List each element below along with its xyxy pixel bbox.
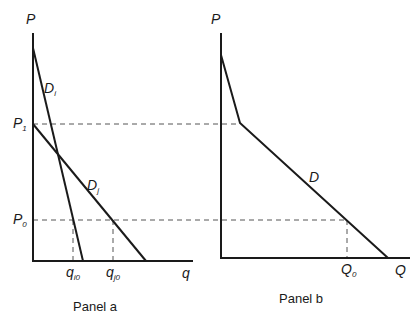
p0-label: P0 [13,211,27,229]
diagram-canvas: P q Di Dj P1 P0 qi0 qj0 Panel a P Q D Q0… [0,0,418,322]
aggregate-demand-curve [221,55,388,258]
panel-a-y-axis-label: P [26,11,36,27]
di-label: Di [44,80,56,98]
p1-label: P1 [13,115,27,133]
panel-b-y-axis-label: P [211,11,221,27]
qj0-label: qj0 [106,264,121,282]
q0-label: Q0 [341,261,357,279]
panel-a: P q Di Dj P1 P0 qi0 qj0 Panel a [13,11,193,314]
qi0-label: qi0 [66,264,81,282]
panel-b: P Q D Q0 Panel b [211,11,410,306]
panel-b-x-axis-label: Q [395,262,406,278]
dj-label: Dj [87,177,99,195]
panel-a-caption: Panel a [73,299,118,314]
d-label: D [309,169,319,185]
panel-a-x-axis-label: q [182,265,190,281]
panel-b-axes [221,33,410,258]
panel-b-caption: Panel b [279,291,323,306]
